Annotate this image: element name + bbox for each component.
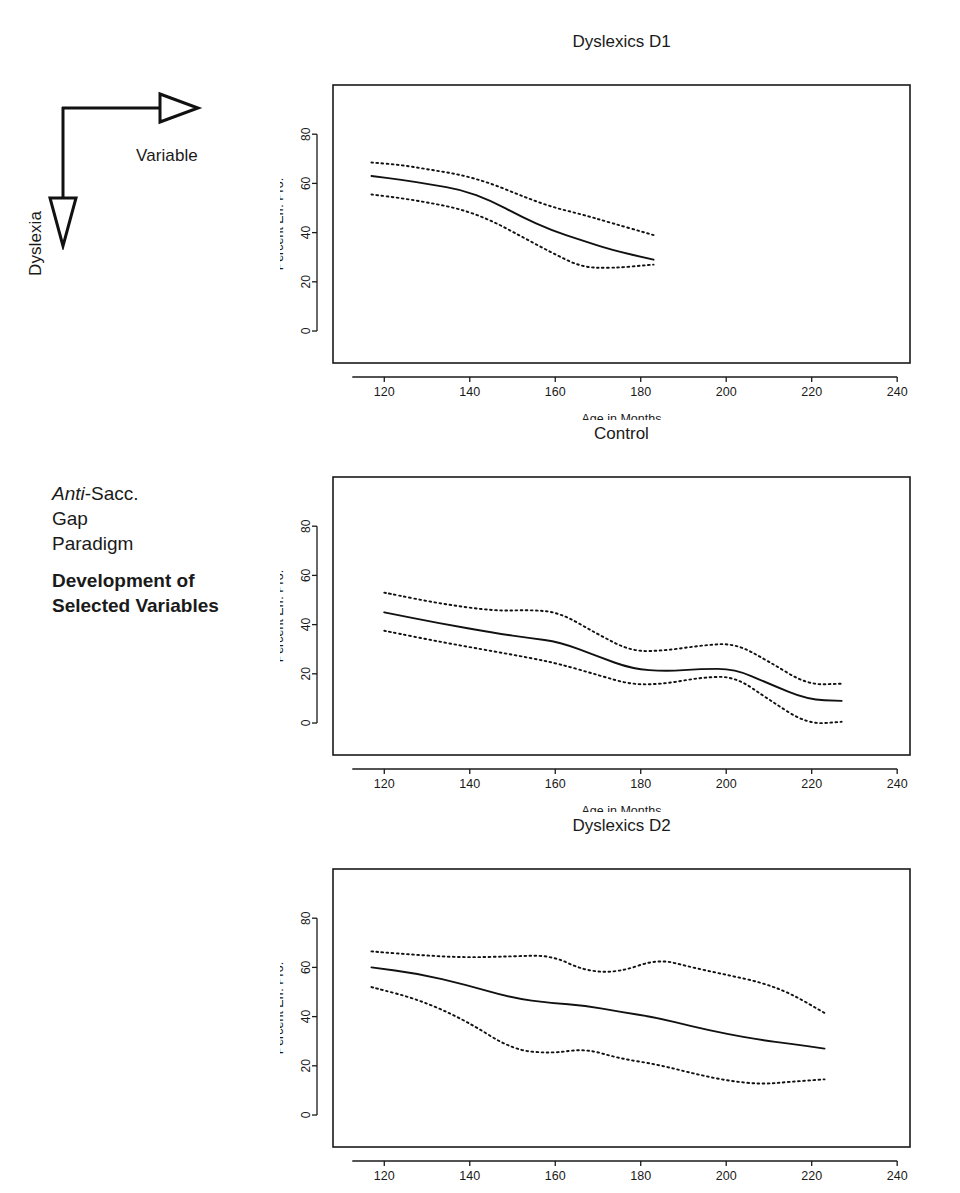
paradigm-caption: Anti-Sacc. Gap Paradigm xyxy=(52,481,139,556)
y-axis-tick-label: 80 xyxy=(299,519,313,533)
x-axis-title: Age in Months xyxy=(582,804,662,812)
x-axis-tick-label: 180 xyxy=(630,1169,651,1183)
y-axis-tick-label: 40 xyxy=(299,618,313,632)
x-axis-tick-label: 180 xyxy=(630,777,651,791)
y-axis-tick-label: 80 xyxy=(299,911,313,925)
y-axis-tick-label: 60 xyxy=(299,960,313,974)
series-mean xyxy=(371,176,653,260)
x-axis-tick-label: 180 xyxy=(630,385,651,399)
y-axis-tick-label: 20 xyxy=(299,1059,313,1073)
y-axis-tick-label: 0 xyxy=(299,1111,313,1118)
chart-plot-area: 020406080Percent Err. Pro.12014016018020… xyxy=(280,28,940,420)
axes-orientation-diagram: Variable Dyslexia xyxy=(48,70,248,250)
variable-arrow-head xyxy=(160,94,198,122)
x-axis-tick-label: 160 xyxy=(545,385,566,399)
x-axis-tick-label: 240 xyxy=(887,385,908,399)
plot-frame xyxy=(333,85,910,363)
paradigm-line-3: Paradigm xyxy=(52,531,139,556)
chart-panel-control: Control 020406080Percent Err. Pro.120140… xyxy=(280,420,940,812)
x-axis-tick-label: 200 xyxy=(716,1169,737,1183)
chart-plot-area: 020406080Percent Err. Pro.12014016018020… xyxy=(280,812,940,1193)
y-axis-tick-label: 60 xyxy=(299,568,313,582)
y-axis-tick-label: 40 xyxy=(299,1010,313,1024)
series-lower xyxy=(371,987,824,1083)
x-axis-tick-label: 160 xyxy=(545,777,566,791)
x-axis-tick-label: 160 xyxy=(545,1169,566,1183)
figure-subtitle: Development of Selected Variables xyxy=(52,568,219,618)
x-axis-tick-label: 240 xyxy=(887,777,908,791)
subtitle-line-2: Selected Variables xyxy=(52,593,219,618)
x-axis-tick-label: 200 xyxy=(716,385,737,399)
x-axis-tick-label: 120 xyxy=(374,777,395,791)
x-axis-tick-label: 220 xyxy=(801,1169,822,1183)
y-axis-tick-label: 60 xyxy=(299,176,313,190)
x-axis-tick-label: 140 xyxy=(459,777,480,791)
y-axis-tick-label: 20 xyxy=(299,275,313,289)
chart-panel-dyslexics-d1: Dyslexics D1 020406080Percent Err. Pro.1… xyxy=(280,28,940,420)
y-axis-tick-label: 0 xyxy=(299,327,313,334)
paradigm-line-1: Anti-Sacc. xyxy=(52,481,139,506)
x-axis-tick-label: 120 xyxy=(374,385,395,399)
chart-plot-area: 020406080Percent Err. Pro.12014016018020… xyxy=(280,420,940,812)
y-axis-title: Percent Err. Pro. xyxy=(280,962,286,1054)
y-axis-title: Percent Err. Pro. xyxy=(280,570,286,662)
series-lower xyxy=(384,631,841,723)
plot-frame xyxy=(333,477,910,755)
series-upper xyxy=(384,593,841,685)
x-axis-tick-label: 140 xyxy=(459,1169,480,1183)
x-axis-title: Age in Months xyxy=(582,412,662,420)
dyslexia-axis-label: Dyslexia xyxy=(26,211,46,276)
x-axis-tick-label: 200 xyxy=(716,777,737,791)
y-axis-tick-label: 40 xyxy=(299,226,313,240)
series-upper xyxy=(371,951,824,1013)
paradigm-sacc-word: -Sacc. xyxy=(85,483,139,504)
x-axis-tick-label: 120 xyxy=(374,1169,395,1183)
paradigm-anti-word: Anti xyxy=(52,483,85,504)
dyslexia-arrow-head xyxy=(50,198,76,246)
variable-axis-label: Variable xyxy=(136,146,198,166)
y-axis-tick-label: 0 xyxy=(299,719,313,726)
x-axis-tick-label: 220 xyxy=(801,385,822,399)
paradigm-line-2: Gap xyxy=(52,506,139,531)
series-mean xyxy=(384,612,841,701)
plot-frame xyxy=(333,869,910,1147)
y-axis-tick-label: 80 xyxy=(299,127,313,141)
series-upper xyxy=(371,162,653,235)
y-axis-title: Percent Err. Pro. xyxy=(280,178,286,270)
chart-panel-dyslexics-d2: Dyslexics D2 020406080Percent Err. Pro.1… xyxy=(280,812,940,1193)
subtitle-line-1: Development of xyxy=(52,568,219,593)
x-axis-tick-label: 140 xyxy=(459,385,480,399)
y-axis-tick-label: 20 xyxy=(299,667,313,681)
x-axis-tick-label: 220 xyxy=(801,777,822,791)
series-lower xyxy=(371,194,653,267)
x-axis-tick-label: 240 xyxy=(887,1169,908,1183)
